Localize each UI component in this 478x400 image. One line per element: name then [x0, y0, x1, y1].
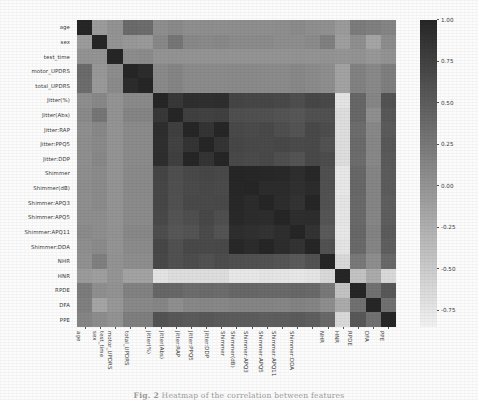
colorbar: [420, 20, 437, 327]
heatmap-cell: [77, 108, 92, 123]
heatmap-cell: [153, 64, 168, 79]
heatmap-cell: [123, 195, 138, 210]
heatmap-cell: [305, 195, 320, 210]
heatmap-cell: [366, 166, 381, 181]
y-axis-tick-label: Jitter(%): [0, 93, 74, 108]
heatmap-cell: [199, 283, 214, 298]
heatmap-cell: [335, 239, 350, 254]
heatmap-cell: [244, 137, 259, 152]
heatmap-cell: [244, 269, 259, 284]
heatmap-cell: [77, 312, 92, 327]
heatmap-cell: [244, 122, 259, 137]
heatmap-cell: [305, 152, 320, 167]
heatmap-cell: [214, 195, 229, 210]
heatmap-cell: [290, 166, 305, 181]
heatmap-cell: [214, 35, 229, 50]
heatmap-cell: [199, 298, 214, 313]
heatmap-cell: [123, 210, 138, 225]
heatmap-cell: [183, 93, 198, 108]
x-axis-tick-label: Shimmer(dB): [230, 331, 236, 368]
heatmap-cell: [107, 93, 122, 108]
heatmap-cell: [259, 254, 274, 269]
y-axis-tick-label: RPDE: [0, 283, 74, 298]
heatmap-cell: [199, 152, 214, 167]
heatmap-cell: [183, 298, 198, 313]
heatmap-cell: [259, 195, 274, 210]
y-axis-tick-label: PPE: [0, 312, 74, 327]
heatmap-cell: [350, 49, 365, 64]
heatmap-cell: [366, 93, 381, 108]
heatmap-cell: [335, 195, 350, 210]
heatmap-cell: [350, 35, 365, 50]
heatmap-cell: [381, 152, 396, 167]
heatmap-cell: [350, 181, 365, 196]
heatmap-cell: [381, 283, 396, 298]
heatmap-cell: [153, 254, 168, 269]
heatmap-cell: [77, 20, 92, 35]
heatmap-cell: [199, 239, 214, 254]
x-axis-tick-mark: [206, 327, 207, 329]
heatmap-cell: [381, 239, 396, 254]
heatmap-cell: [183, 166, 198, 181]
heatmap-cell: [335, 312, 350, 327]
colorbar-tick-text: 1.00: [441, 17, 453, 23]
heatmap-cell: [183, 20, 198, 35]
heatmap-cell: [290, 108, 305, 123]
heatmap-cell: [199, 108, 214, 123]
heatmap-cell: [229, 20, 244, 35]
heatmap-cell: [305, 225, 320, 240]
heatmap-cell: [259, 269, 274, 284]
heatmap-cell: [229, 152, 244, 167]
heatmap-cell: [92, 269, 107, 284]
x-axis-tick-mark: [221, 327, 222, 329]
heatmap-cell: [290, 49, 305, 64]
heatmap-cell: [305, 210, 320, 225]
heatmap-cell: [138, 254, 153, 269]
heatmap-cell: [350, 210, 365, 225]
heatmap-cell: [335, 93, 350, 108]
heatmap-cell: [290, 239, 305, 254]
heatmap-cell: [92, 93, 107, 108]
heatmap-cell: [214, 254, 229, 269]
heatmap-cell: [259, 93, 274, 108]
x-axis-tick-label: HNR: [333, 331, 339, 343]
x-axis-tick-mark: [358, 327, 359, 329]
heatmap-cell: [335, 108, 350, 123]
heatmap-cell: [290, 283, 305, 298]
heatmap-cell: [244, 298, 259, 313]
y-axis-tick-label: Shimmer:APQ11: [0, 225, 74, 240]
heatmap-cell: [290, 122, 305, 137]
x-axis-tick-mark: [252, 327, 253, 329]
heatmap-cell: [168, 152, 183, 167]
y-axis-tick-label: Shimmer:APQ5: [0, 210, 74, 225]
heatmap-cell: [199, 20, 214, 35]
heatmap-plot-area[interactable]: [77, 20, 396, 327]
heatmap-cell: [274, 269, 289, 284]
heatmap-cell: [123, 269, 138, 284]
heatmap-cell: [381, 181, 396, 196]
x-axis-tick-mark: [191, 327, 192, 329]
heatmap-cell: [229, 166, 244, 181]
heatmap-cell: [199, 122, 214, 137]
y-axis-tick-label: NHR: [0, 254, 74, 269]
y-axis-tick-label: test_time: [0, 49, 74, 64]
heatmap-cell: [138, 312, 153, 327]
heatmap-cell: [168, 35, 183, 50]
heatmap-cell: [168, 312, 183, 327]
heatmap-cell: [320, 122, 335, 137]
heatmap-cell: [138, 181, 153, 196]
heatmap-cell: [274, 239, 289, 254]
x-axis-tick-label: Jitter(Abs): [158, 331, 164, 359]
heatmap-cell: [244, 108, 259, 123]
heatmap-cell: [77, 166, 92, 181]
heatmap-cell: [77, 137, 92, 152]
heatmap-cell: [259, 225, 274, 240]
heatmap-cell: [320, 254, 335, 269]
heatmap-cell: [335, 298, 350, 313]
heatmap-cell: [214, 181, 229, 196]
colorbar-tick-mark: [437, 268, 439, 269]
heatmap-cell: [153, 269, 168, 284]
heatmap-cell: [77, 239, 92, 254]
x-axis-tick-mark: [267, 327, 268, 329]
y-axis-tick-label: Jitter(Abs): [0, 108, 74, 123]
